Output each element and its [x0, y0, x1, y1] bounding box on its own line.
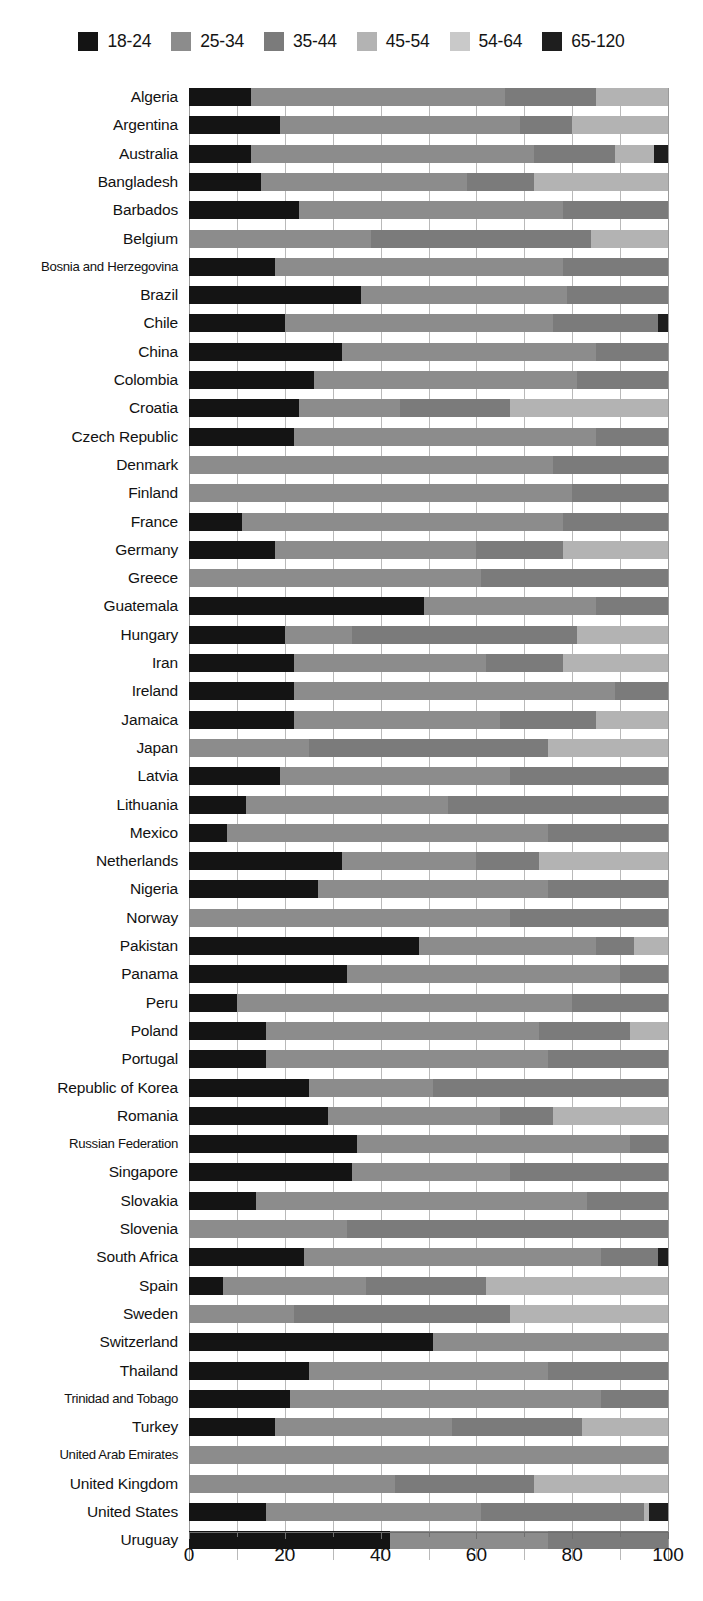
bar-segment-35-44[interactable]	[563, 258, 668, 276]
bar-segment-45-54[interactable]	[596, 88, 668, 106]
bar-row[interactable]: Republic of Korea	[189, 1079, 668, 1097]
bar-row[interactable]: Czech Republic	[189, 428, 668, 446]
bar-segment-18-24[interactable]	[189, 173, 261, 191]
bar-segment-35-44[interactable]	[371, 230, 591, 248]
bar-row[interactable]: Singapore	[189, 1163, 668, 1181]
bar-segment-18-24[interactable]	[189, 1192, 256, 1210]
bar-segment-18-24[interactable]	[189, 1135, 357, 1153]
bar-segment-35-44[interactable]	[448, 796, 668, 814]
bar-row[interactable]: South Africa	[189, 1248, 668, 1266]
bar-segment-35-44[interactable]	[548, 880, 668, 898]
bar-segment-18-24[interactable]	[189, 343, 342, 361]
bar-segment-35-44[interactable]	[500, 1107, 553, 1125]
bar-segment-25-34[interactable]	[189, 569, 481, 587]
bar-segment-18-24[interactable]	[189, 1362, 309, 1380]
bar-segment-25-34[interactable]	[342, 852, 476, 870]
bar-row[interactable]: Portugal	[189, 1050, 668, 1068]
bar-row[interactable]: Pakistan	[189, 937, 668, 955]
bar-row[interactable]: United States	[189, 1503, 668, 1521]
bar-segment-45-54[interactable]	[634, 937, 668, 955]
bar-row[interactable]: United Kingdom	[189, 1475, 668, 1493]
bar-segment-25-34[interactable]	[433, 1333, 668, 1351]
bar-segment-35-44[interactable]	[395, 1475, 534, 1493]
bar-segment-18-24[interactable]	[189, 880, 318, 898]
bar-segment-35-44[interactable]	[620, 965, 668, 983]
bar-segment-35-44[interactable]	[505, 88, 596, 106]
bar-segment-25-34[interactable]	[361, 286, 567, 304]
bar-segment-18-24[interactable]	[189, 994, 237, 1012]
bar-segment-35-44[interactable]	[481, 569, 668, 587]
bar-segment-18-24[interactable]	[189, 428, 294, 446]
bar-segment-18-24[interactable]	[189, 597, 424, 615]
bar-segment-25-34[interactable]	[280, 767, 510, 785]
bar-row[interactable]: Trinidad and Tobago	[189, 1390, 668, 1408]
bar-segment-18-24[interactable]	[189, 824, 227, 842]
bar-row[interactable]: Bangladesh	[189, 173, 668, 191]
bar-row[interactable]: Spain	[189, 1277, 668, 1295]
bar-row[interactable]: Netherlands	[189, 852, 668, 870]
bar-row[interactable]: France	[189, 513, 668, 531]
bar-segment-25-34[interactable]	[309, 1079, 434, 1097]
bar-segment-35-44[interactable]	[596, 428, 668, 446]
bar-segment-18-24[interactable]	[189, 314, 285, 332]
bar-segment-35-44[interactable]	[548, 1362, 668, 1380]
bar-segment-35-44[interactable]	[596, 597, 668, 615]
bar-segment-35-44[interactable]	[520, 116, 573, 134]
bar-segment-25-34[interactable]	[251, 145, 534, 163]
bar-segment-25-34[interactable]	[266, 1503, 482, 1521]
bar-segment-35-44[interactable]	[510, 1163, 668, 1181]
bar-segment-25-34[interactable]	[237, 994, 572, 1012]
bar-segment-25-34[interactable]	[189, 1475, 395, 1493]
bar-segment-35-44[interactable]	[553, 314, 658, 332]
bar-segment-25-34[interactable]	[275, 258, 562, 276]
bar-segment-25-34[interactable]	[285, 314, 553, 332]
bar-row[interactable]: Greece	[189, 569, 668, 587]
bar-segment-18-24[interactable]	[189, 852, 342, 870]
bar-segment-25-34[interactable]	[285, 626, 352, 644]
bar-segment-35-44[interactable]	[615, 682, 668, 700]
bar-segment-35-44[interactable]	[467, 173, 534, 191]
bar-segment-45-54[interactable]	[534, 173, 668, 191]
bar-segment-25-34[interactable]	[318, 880, 548, 898]
bar-segment-25-34[interactable]	[424, 597, 596, 615]
bar-segment-35-44[interactable]	[352, 626, 577, 644]
bar-segment-25-34[interactable]	[223, 1277, 367, 1295]
bar-segment-35-44[interactable]	[294, 1305, 510, 1323]
bar-segment-45-54[interactable]	[596, 711, 668, 729]
bar-segment-25-34[interactable]	[280, 116, 520, 134]
bar-row[interactable]: Finland	[189, 484, 668, 502]
bar-row[interactable]: Mexico	[189, 824, 668, 842]
bar-segment-25-34[interactable]	[189, 1446, 668, 1464]
bar-segment-35-44[interactable]	[510, 767, 668, 785]
bar-segment-35-44[interactable]	[476, 541, 562, 559]
bar-segment-35-44[interactable]	[572, 994, 668, 1012]
bar-row[interactable]: Slovenia	[189, 1220, 668, 1238]
bar-segment-25-34[interactable]	[189, 739, 309, 757]
bar-segment-18-24[interactable]	[189, 682, 294, 700]
bar-segment-35-44[interactable]	[572, 484, 668, 502]
bar-segment-35-44[interactable]	[400, 399, 510, 417]
bar-segment-45-54[interactable]	[572, 116, 668, 134]
bar-segment-25-34[interactable]	[242, 513, 563, 531]
bar-segment-25-34[interactable]	[246, 796, 447, 814]
bar-segment-45-54[interactable]	[486, 1277, 668, 1295]
bar-segment-45-54[interactable]	[534, 1475, 668, 1493]
bar-row[interactable]: Panama	[189, 965, 668, 983]
bar-segment-18-24[interactable]	[189, 796, 246, 814]
bar-segment-35-44[interactable]	[567, 286, 668, 304]
bar-segment-18-24[interactable]	[189, 541, 275, 559]
legend-entry-54-64[interactable]: 54-64	[450, 32, 523, 51]
bar-segment-25-34[interactable]	[266, 1050, 549, 1068]
bar-segment-45-54[interactable]	[591, 230, 668, 248]
bar-segment-25-34[interactable]	[189, 909, 510, 927]
bar-segment-18-24[interactable]	[189, 1050, 266, 1068]
bar-segment-45-54[interactable]	[510, 399, 668, 417]
bar-segment-45-54[interactable]	[582, 1418, 668, 1436]
bar-segment-25-34[interactable]	[275, 541, 476, 559]
bar-segment-35-44[interactable]	[534, 145, 615, 163]
bar-row[interactable]: United Arab Emirates	[189, 1446, 668, 1464]
bar-row[interactable]: Slovakia	[189, 1192, 668, 1210]
bar-segment-18-24[interactable]	[189, 711, 294, 729]
bar-segment-18-24[interactable]	[189, 626, 285, 644]
bar-segment-18-24[interactable]	[189, 654, 294, 672]
